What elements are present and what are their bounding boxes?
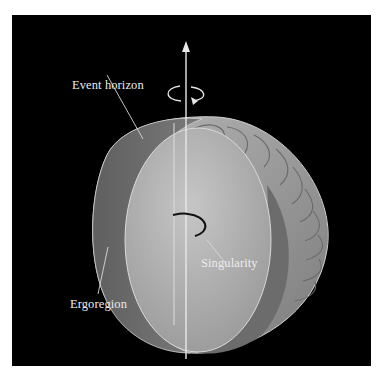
black-hole-illustration [12,15,371,366]
diagram-canvas: Event horizon Singularity Ergoregion [12,15,371,366]
event-horizon-surface [125,128,271,352]
ergoregion-label: Ergoregion [70,297,127,312]
singularity-label: Singularity [201,256,258,271]
axis-arrowhead-icon [182,41,190,52]
event-horizon-label: Event horizon [72,78,144,93]
